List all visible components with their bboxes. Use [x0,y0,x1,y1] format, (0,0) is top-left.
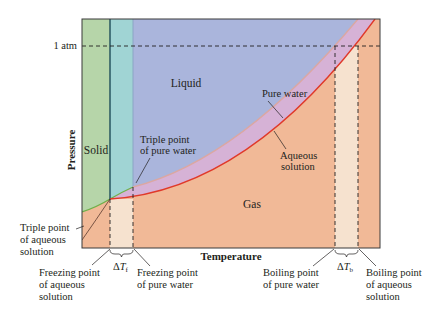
solid-region [82,19,110,212]
delta-tf-label: ΔTf [113,261,129,274]
delta-tb-strip [335,46,358,248]
delta-tf-bracket [110,250,133,257]
tp-aq-line2: of aqueous [20,234,66,245]
fp-aq-line1: Freezing point [39,267,100,278]
bp-aq-leader [359,249,376,266]
plot-area [82,19,380,248]
solid-label: Solid [84,144,109,156]
fp-aq-leader [92,249,110,265]
temperature-axis-label: Temperature [200,250,261,262]
bp-aq-line2: of aqueous [366,279,412,290]
bp-pure-line1: Boiling point [263,267,319,278]
bp-aq-line1: Boiling point [366,267,422,278]
gas-label: Gas [243,198,261,210]
tp-pure-line1: Triple point [140,134,190,145]
bp-aq-line3: solution [366,291,401,302]
aqueous-label-line2: solution [281,161,316,172]
fp-pure-leader [134,249,150,266]
bp-pure-line2: of pure water [263,279,319,290]
fp-pure-line1: Freezing point [137,267,198,278]
one-atm-label: 1 atm [53,40,77,51]
tp-aq-line3: solution [20,246,55,257]
aqueous-label-line1: Aqueous [280,150,317,161]
fp-pure-line2: of pure water [137,279,193,290]
delta-tf-strip-fill [110,199,133,248]
fp-aq-line3: solution [39,291,74,302]
fp-aq-line2: of aqueous [39,279,85,290]
delta-tb-label: ΔTb [337,261,354,274]
pure-water-label: Pure water [262,88,308,99]
tp-aq-line1: Triple point [20,222,70,233]
liquid-label: Liquid [171,77,202,90]
pressure-axis-label: Pressure [65,130,77,171]
phase-diagram: 1 atm Pressure Temperature Solid Liquid … [0,0,446,315]
bp-pure-leader [313,249,334,266]
tp-pure-line2: of pure water [140,145,196,156]
delta-tb-bracket [335,250,358,257]
